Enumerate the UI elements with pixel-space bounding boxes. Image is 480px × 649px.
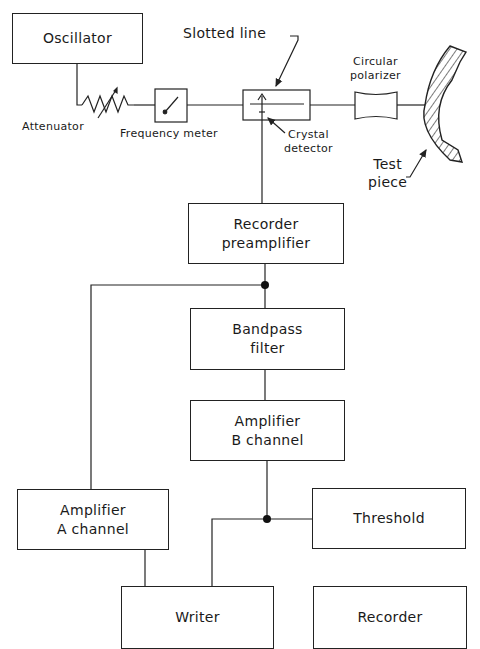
test-piece-label-line2: piece	[368, 173, 407, 191]
test-piece-label: Test piece	[368, 155, 407, 191]
amplifier-a-label-line2: A channel	[57, 520, 129, 539]
amplifier-a-channel-box: Amplifier A channel	[17, 489, 169, 550]
crystal-detector-label-line2: detector	[284, 142, 333, 156]
crystal-detector-label: Crystal detector	[284, 128, 333, 156]
slotted-line-box	[243, 90, 310, 120]
circular-polarizer-label-line2: polarizer	[350, 69, 401, 83]
recorder-preamplifier-box: Recorder preamplifier	[188, 203, 344, 264]
circular-polarizer-label-line1: Circular	[350, 55, 401, 69]
test-piece-label-line1: Test	[368, 155, 407, 173]
recorder-label: Recorder	[357, 608, 422, 627]
writer-box: Writer	[121, 586, 274, 649]
threshold-box: Threshold	[312, 488, 466, 549]
circular-polarizer-label: Circular polarizer	[350, 55, 401, 83]
recorder-preamplifier-label-line1: Recorder	[222, 215, 311, 234]
amplifier-a-label-line1: Amplifier	[57, 501, 129, 520]
junction-dot-preamp	[261, 281, 269, 289]
amplifier-b-channel-box: Amplifier B channel	[190, 400, 345, 461]
circular-polarizer-icon	[355, 92, 397, 119]
bandpass-filter-label-line1: Bandpass	[232, 320, 302, 339]
frequency-meter-needle-icon	[165, 97, 178, 112]
attenuator-resistor-icon	[82, 96, 134, 112]
amplifier-b-label-line1: Amplifier	[231, 412, 303, 431]
writer-label: Writer	[175, 608, 220, 627]
recorder-box: Recorder	[313, 586, 467, 649]
bandpass-filter-label-line2: filter	[232, 339, 302, 358]
attenuator-variable-arrow-icon	[98, 90, 116, 118]
oscillator-box: Oscillator	[12, 13, 143, 64]
threshold-label: Threshold	[353, 509, 425, 528]
amplifier-b-label-line2: B channel	[231, 431, 303, 450]
test-piece-icon	[424, 46, 466, 162]
oscillator-label: Oscillator	[43, 29, 112, 48]
crystal-detector-label-line1: Crystal	[284, 128, 333, 142]
junction-dot-amp-b	[263, 515, 271, 523]
wire-oscillator-attenuator	[77, 63, 82, 105]
slotted-line-leader	[276, 36, 298, 86]
slotted-line-label: Slotted line	[183, 24, 266, 42]
test-piece-leader	[406, 150, 426, 177]
frequency-meter-label: Frequency meter	[120, 127, 218, 141]
attenuator-label: Attenuator	[22, 120, 84, 134]
recorder-preamplifier-label-line2: preamplifier	[222, 234, 311, 253]
bandpass-filter-box: Bandpass filter	[190, 308, 345, 370]
